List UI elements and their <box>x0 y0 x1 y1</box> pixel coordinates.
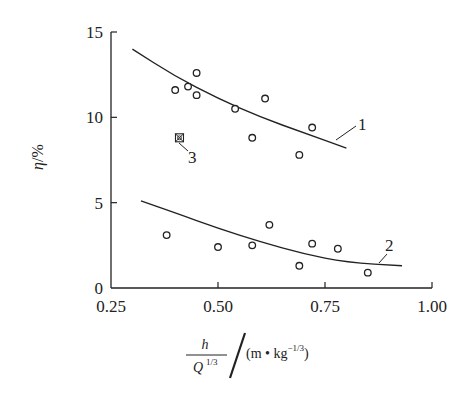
data-point-series-1 <box>309 124 316 131</box>
data-point-series-2 <box>249 242 256 249</box>
data-point-series-1 <box>232 106 239 113</box>
fit-curve-1 <box>132 49 346 148</box>
axes: 0510150.250.500.751.00 <box>86 23 447 316</box>
curve-label-3: 3 <box>188 148 197 167</box>
data-point-series-1 <box>296 152 303 159</box>
curve-labels: 123 <box>179 115 394 263</box>
y-tick-label: 5 <box>95 194 104 213</box>
x-tick-label: 0.25 <box>96 297 126 316</box>
chart: 0510150.250.500.751.00 123 η/% h Q 1/3 (… <box>0 0 470 395</box>
x-axis-label: h Q 1/3 (m • kg−1/3) <box>186 333 309 378</box>
x-label-denominator: Q <box>193 360 203 375</box>
x-label-denominator-exp: 1/3 <box>206 357 218 367</box>
fit-curves <box>132 49 402 266</box>
data-point-series-2 <box>365 269 372 276</box>
leader-line-3 <box>179 143 188 151</box>
y-tick-label: 15 <box>86 23 103 42</box>
fit-curve-2 <box>141 201 402 266</box>
data-point-series-2 <box>309 240 316 247</box>
x-label-numerator: h <box>202 337 209 352</box>
data-point-series-1 <box>193 92 200 99</box>
x-label-unit: (m • kg−1/3) <box>246 343 309 362</box>
y-axis-label: η/% <box>29 144 47 170</box>
x-tick-label: 1.00 <box>417 297 447 316</box>
y-label-unit: /% <box>29 144 46 162</box>
x-tick-label: 0.50 <box>203 297 233 316</box>
leader-line-1 <box>336 126 356 140</box>
data-point-series-1 <box>262 95 269 102</box>
data-point-series-1 <box>193 70 200 77</box>
y-label-symbol: η <box>29 162 47 170</box>
y-tick-label: 0 <box>95 279 104 298</box>
data-points <box>163 70 371 276</box>
slash <box>230 333 245 378</box>
data-point-series-1 <box>249 135 256 142</box>
x-tick-label: 0.75 <box>310 297 340 316</box>
marker-crossed-square <box>175 134 183 142</box>
data-point-series-2 <box>296 263 303 270</box>
data-point-series-2 <box>215 244 222 251</box>
data-point-series-1 <box>172 87 179 94</box>
curve-label-1: 1 <box>358 115 367 134</box>
leader-line-2 <box>379 254 387 263</box>
curve-label-2: 2 <box>385 236 394 255</box>
data-point-series-1 <box>185 83 192 90</box>
y-tick-label: 10 <box>86 108 103 127</box>
data-point-series-2 <box>266 222 273 229</box>
data-point-series-2 <box>335 245 342 252</box>
data-point-series-2 <box>163 232 170 239</box>
